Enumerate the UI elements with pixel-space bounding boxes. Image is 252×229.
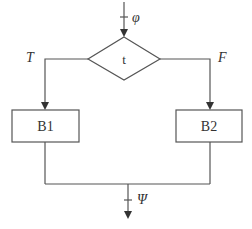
true-branch-edge xyxy=(41,59,88,110)
input-label: φ xyxy=(132,10,140,25)
input-arrow xyxy=(120,2,128,37)
if-then-else-flowchart: φ t T F B1 B2 Ψ xyxy=(0,0,252,229)
true-edge-label: T xyxy=(26,50,35,65)
condition-label: t xyxy=(122,52,126,67)
false-edge-label: F xyxy=(217,50,227,65)
block-b1-label: B1 xyxy=(37,119,53,134)
merge-edge xyxy=(45,142,210,184)
output-label: Ψ xyxy=(137,192,148,207)
false-branch-edge xyxy=(160,59,214,110)
output-arrow xyxy=(124,184,132,219)
block-b2-label: B2 xyxy=(201,119,217,134)
